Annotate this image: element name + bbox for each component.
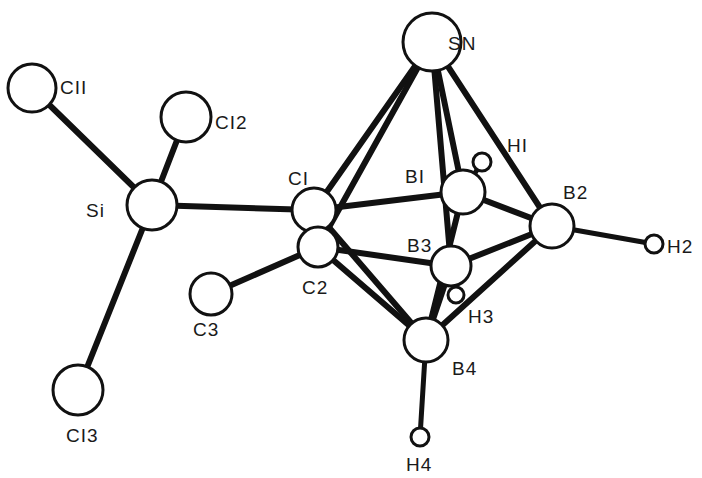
atom-label-c1: CI [288,168,309,189]
atom-label-c2: C2 [302,277,328,298]
atom-b1 [441,170,485,214]
atom-h1 [473,153,491,171]
atom-h3 [448,287,464,303]
atom-label-b1: BI [405,166,425,187]
atom-c1 [292,188,336,232]
atom-label-b2: B2 [563,182,588,203]
molecular-structure-diagram: SNCIICI2SiCIBIHIB2H2C2B3H3C3B4H4CI3 [0,0,702,478]
bond-c1-b4 [314,210,426,340]
atom-h2 [645,235,663,253]
atom-label-sn: SN [448,33,476,54]
bond-si-cl3 [78,205,152,390]
atom-label-c3: C3 [193,319,219,340]
atom-label-cl3: CI3 [66,425,99,446]
atom-label-cl2: CI2 [215,112,248,133]
atom-label-h3: H3 [468,306,494,327]
atom-c2 [298,227,338,267]
atom-label-h2: H2 [667,236,693,257]
atom-label-b3: B3 [407,235,432,256]
atom-cl1 [8,64,56,112]
atom-cl2 [161,92,211,142]
atom-c3 [190,273,232,315]
atom-cl3 [53,365,103,415]
atom-label-cl1: CII [60,77,87,98]
atom-h4 [411,428,429,446]
atom-b2 [530,204,574,248]
atoms-layer [8,13,663,446]
atom-label-si: Si [86,200,105,221]
atom-si [127,180,177,230]
atom-b3 [431,246,471,286]
atom-b4 [404,318,448,362]
atom-label-h1: HI [507,135,528,156]
atom-label-h4: H4 [406,454,432,475]
atom-label-b4: B4 [452,358,477,379]
